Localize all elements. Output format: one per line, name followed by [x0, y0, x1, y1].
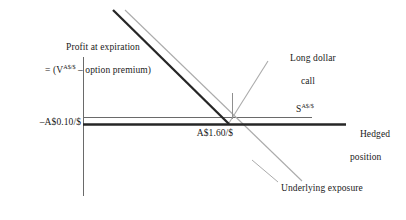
payoff-diagram: Profit at expiration = (VA$/$ – option p…	[0, 0, 406, 220]
underlying-exposure-leader	[252, 160, 278, 182]
long-dollar-call-line	[229, 61, 268, 123]
profit-formula-suffix: – option premium)	[76, 65, 151, 75]
hedged-position-label: Hedged position	[350, 117, 404, 186]
long-dollar-call-label-line2: call	[272, 76, 344, 88]
hedged-position-label-line2: position	[350, 152, 404, 164]
profit-axis-label: Profit at expiration = (VA$/$ – option p…	[36, 30, 160, 99]
long-dollar-call-label: Long dollar call	[272, 41, 344, 110]
profit-formula-prefix: = (V	[45, 65, 63, 75]
profit-axis-label-line2: = (VA$/$ – option premium)	[36, 65, 160, 77]
underlying-exposure-label: Underlying exposure	[281, 183, 363, 195]
strike-price-label: A$1.60/$	[186, 128, 244, 140]
option-premium-axis-label: –A$0.10/$	[25, 117, 81, 129]
hedged-position-label-line1: Hedged	[360, 129, 390, 139]
long-dollar-call-label-line1: Long dollar	[290, 53, 336, 63]
profit-formula-superscript: A$/$	[63, 62, 75, 69]
profit-axis-label-line1: Profit at expiration	[66, 42, 140, 52]
